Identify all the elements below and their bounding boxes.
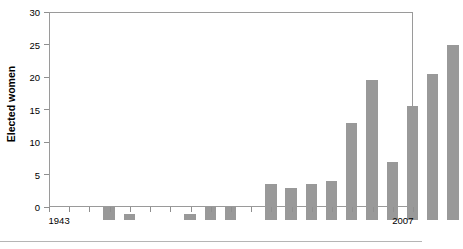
x-tick-mark [413, 207, 414, 212]
y-tick-label: 15 [12, 104, 40, 115]
x-tick-mark [69, 207, 70, 212]
x-tick-mark [393, 207, 394, 212]
x-tick-label: 2007 [392, 215, 413, 226]
bar [447, 45, 458, 221]
bar [346, 123, 357, 221]
bar [427, 74, 438, 220]
x-tick-mark [211, 207, 212, 212]
x-tick-mark [292, 207, 293, 212]
y-tick-label: 30 [12, 7, 40, 18]
x-tick-mark [332, 207, 333, 212]
x-tick-mark [231, 207, 232, 212]
x-tick-label: 1943 [49, 215, 70, 226]
x-tick-mark [130, 207, 131, 212]
x-tick-mark [191, 207, 192, 212]
plot-area [49, 12, 413, 207]
y-tick-label: 0 [12, 202, 40, 213]
y-axis-ticks: 051015202530 [0, 0, 49, 220]
y-tick-label: 5 [12, 169, 40, 180]
x-tick-mark [89, 207, 90, 212]
x-tick-mark [352, 207, 353, 212]
x-tick-mark [312, 207, 313, 212]
bar [407, 106, 418, 220]
bottom-divider [0, 241, 422, 242]
x-tick-mark [373, 207, 374, 212]
x-tick-mark [170, 207, 171, 212]
x-tick-mark [251, 207, 252, 212]
y-tick-label: 20 [12, 72, 40, 83]
bar-series [99, 25, 463, 220]
y-tick-label: 25 [12, 39, 40, 50]
x-tick-mark [49, 207, 50, 212]
x-axis-ticks: 19432007 [49, 207, 413, 237]
bar [366, 80, 377, 220]
x-tick-mark [150, 207, 151, 212]
x-tick-mark [110, 207, 111, 212]
y-tick-label: 10 [12, 137, 40, 148]
x-tick-mark [271, 207, 272, 212]
